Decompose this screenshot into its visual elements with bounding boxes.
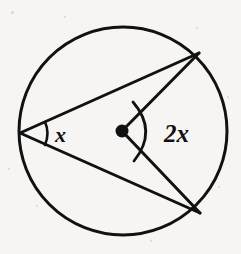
central-angle-label: 2x xyxy=(163,120,189,147)
center-dot xyxy=(116,125,129,138)
inscribed-angle-arc xyxy=(45,122,48,145)
inscribed-angle-label: x xyxy=(54,122,66,147)
diagram-canvas: x 2x xyxy=(0,0,241,254)
circle-angle-diagram: x 2x xyxy=(0,0,241,254)
